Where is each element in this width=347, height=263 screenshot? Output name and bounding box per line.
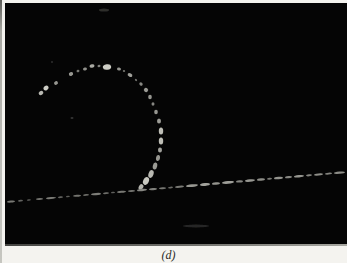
track-dot <box>158 147 162 152</box>
track-dot <box>68 71 74 76</box>
beam-line-dash <box>175 185 184 188</box>
beam-line-dash <box>236 180 243 183</box>
track-dot <box>97 65 100 68</box>
track-dot <box>117 67 121 71</box>
beam-line-dash <box>325 172 332 175</box>
track-dot <box>143 87 149 93</box>
track-dot <box>123 70 126 73</box>
track-dot <box>152 162 158 170</box>
beam-line-dash <box>58 196 63 198</box>
beam-line-dash <box>168 186 173 188</box>
beam-line-dash <box>46 197 56 200</box>
beam-line-dash <box>128 190 135 193</box>
beam-line-dash <box>91 193 101 196</box>
track-dot <box>102 64 111 71</box>
track-svg <box>5 3 347 246</box>
beam-line-dash <box>103 192 109 194</box>
beam-line-dash <box>314 173 323 176</box>
figure: (d) <box>0 0 347 263</box>
beam-line-dash <box>257 178 265 181</box>
beam-line-dash <box>27 199 31 201</box>
beam-line-dash <box>36 198 43 201</box>
beam-line-dash <box>111 192 115 194</box>
track-dot <box>159 138 163 145</box>
track-dot <box>148 95 152 99</box>
track-dot <box>156 155 161 161</box>
beam-line-dash <box>274 176 283 179</box>
beam-line-dash <box>267 178 272 180</box>
beam-line-dash <box>117 190 126 193</box>
particle-track-photograph <box>5 3 347 246</box>
beam-line-dash <box>7 200 15 203</box>
track-dot <box>157 119 161 124</box>
track-dot <box>152 102 155 106</box>
film-speck <box>51 61 53 63</box>
beam-line-dash <box>149 188 157 191</box>
track-dot <box>38 90 44 96</box>
film-speck <box>183 225 209 228</box>
track-dot <box>142 176 150 186</box>
beam-line-dash <box>200 183 210 187</box>
beam-line-dash <box>66 196 70 198</box>
beam-line-dash <box>73 194 81 197</box>
beam-line-dash <box>285 176 292 179</box>
beam-line-dash <box>137 188 147 191</box>
track-dot <box>83 67 88 71</box>
beam-line-dash <box>212 182 220 185</box>
film-speck <box>71 117 74 119</box>
track-dot <box>139 82 144 87</box>
track-dot <box>159 128 163 135</box>
beam-line-dash <box>334 171 345 174</box>
beam-line-dash <box>245 179 255 182</box>
photo-bottom-fringe <box>5 244 347 246</box>
track-dot <box>154 110 158 114</box>
figure-caption: (d) <box>0 248 337 262</box>
track-dot <box>127 72 133 78</box>
track-dot <box>53 80 58 85</box>
film-speck <box>99 9 109 12</box>
track-dot <box>89 64 95 68</box>
track-dot <box>147 169 154 178</box>
track-dot <box>134 78 137 81</box>
beam-line-dash <box>186 184 198 188</box>
beam-line-dash <box>306 174 312 177</box>
beam-line-dash <box>222 181 234 185</box>
beam-line-dash <box>18 200 23 202</box>
beam-line-dash <box>294 175 304 178</box>
page-edge-line <box>0 0 2 263</box>
beam-line-dash <box>83 194 89 196</box>
beam-line-dash <box>159 187 166 190</box>
track-dot <box>42 85 49 92</box>
track-dot <box>76 69 80 72</box>
